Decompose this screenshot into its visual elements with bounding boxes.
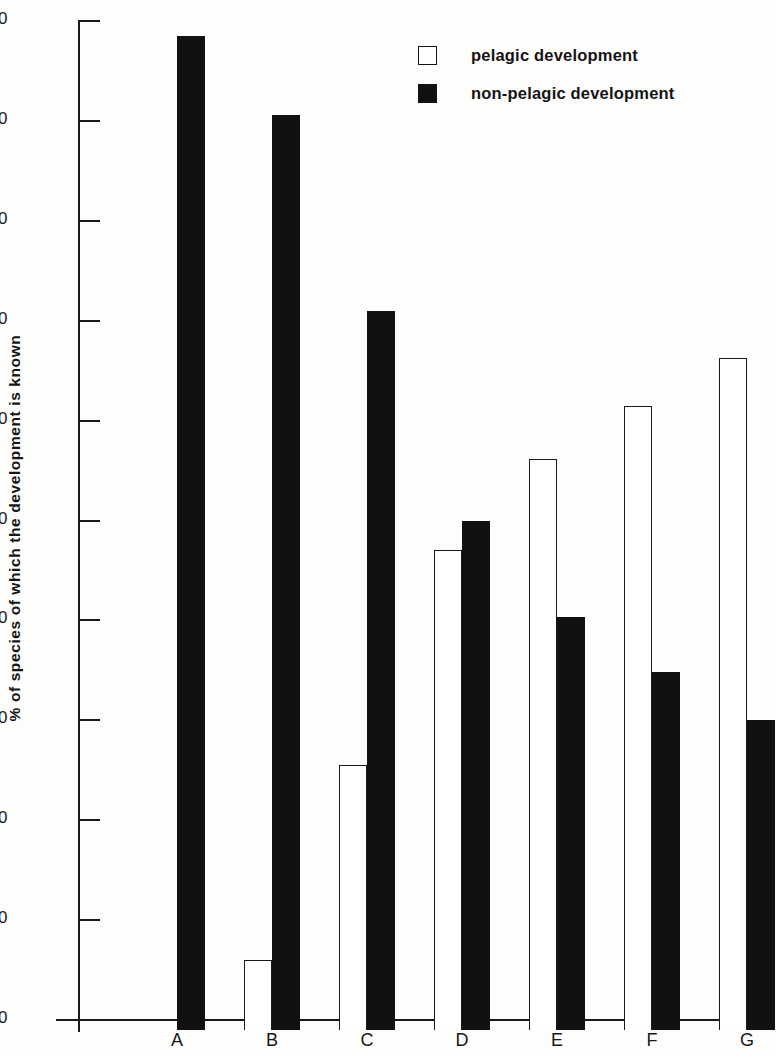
y-tick-mark <box>78 619 100 621</box>
bar-E-pelagic <box>529 459 557 1030</box>
y-tick-mark <box>78 320 100 322</box>
bar-D-non-pelagic <box>462 521 490 1030</box>
y-tick-mark <box>78 1019 100 1021</box>
x-label-A: A <box>157 1030 197 1051</box>
y-axis-line <box>78 20 80 1032</box>
x-label-D: D <box>442 1030 482 1051</box>
bar-F-pelagic <box>624 406 652 1030</box>
bar-C-pelagic <box>339 765 367 1030</box>
bar-F-non-pelagic <box>652 672 680 1030</box>
bar-B-pelagic <box>244 960 272 1030</box>
x-label-E: E <box>537 1030 577 1051</box>
bar-A-non-pelagic <box>177 36 205 1030</box>
bar-B-non-pelagic <box>272 115 300 1030</box>
y-tick-mark <box>78 120 100 122</box>
y-tick-label: 80 <box>0 209 8 229</box>
y-tick-mark <box>78 919 100 921</box>
x-label-G: G <box>727 1030 767 1051</box>
y-tick-mark <box>78 420 100 422</box>
x-label-C: C <box>347 1030 387 1051</box>
y-tick-mark <box>78 819 100 821</box>
y-tick-label: 70 <box>0 309 8 329</box>
bar-chart-figure: % of species of which the development is… <box>0 0 777 1056</box>
y-tick-label: 20 <box>0 808 8 828</box>
y-tick-mark <box>78 220 100 222</box>
y-tick-mark <box>78 719 100 721</box>
x-label-B: B <box>252 1030 292 1051</box>
bar-C-non-pelagic <box>367 311 395 1030</box>
x-label-F: F <box>632 1030 672 1051</box>
bar-D-pelagic <box>434 550 462 1030</box>
y-tick-mark <box>78 20 100 22</box>
y-tick-label: 100 <box>0 9 8 29</box>
y-tick-label: 0 <box>0 1008 8 1028</box>
y-tick-label: 90 <box>0 109 8 129</box>
y-tick-label: 10 <box>0 908 8 928</box>
plot-area: 0102030405060708090100 ABCDEFG <box>78 20 768 1030</box>
y-tick-label: 50 <box>0 509 8 529</box>
y-tick-mark <box>78 520 100 522</box>
y-tick-label: 60 <box>0 409 8 429</box>
y-tick-label: 40 <box>0 608 8 628</box>
bar-E-non-pelagic <box>557 617 585 1030</box>
y-tick-label: 30 <box>0 708 8 728</box>
bar-G-pelagic <box>719 358 747 1030</box>
bar-G-non-pelagic <box>747 720 775 1030</box>
